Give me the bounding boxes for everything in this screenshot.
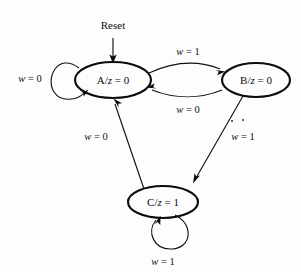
scan-speck-2 [242, 119, 244, 121]
state-node-a[interactable]: A/z = 0 [75, 62, 151, 98]
state-c-label: C/z = 1 [147, 196, 179, 208]
state-a-label: A/z = 0 [97, 74, 130, 86]
reset-label: Reset [101, 19, 125, 31]
transition-b-to-a-group [147, 84, 223, 97]
transition-c-to-a-path [115, 104, 144, 189]
transition-a-to-b-label: w = 1 [176, 46, 199, 57]
fsm-diagram-canvas: Reset w = 0 w = 1 w = 0 w = 1 [0, 0, 301, 272]
transition-a-self-label: w = 0 [18, 73, 41, 84]
transition-c-self-label: w = 1 [151, 256, 174, 267]
transition-c-to-a-group [113, 99, 144, 190]
state-node-b[interactable]: B/z = 0 [222, 63, 290, 97]
transition-c-self-group [152, 215, 189, 249]
transition-b-to-a-path [152, 90, 222, 97]
transition-b-to-c-arrowhead [193, 173, 200, 184]
state-b-label: B/z = 0 [240, 74, 272, 86]
transition-a-self-path [51, 63, 84, 99]
transition-a-to-b-path [149, 63, 220, 73]
scan-speckles [231, 119, 244, 122]
transition-b-to-a-label: w = 0 [176, 104, 199, 115]
transition-b-to-c-label: w = 1 [231, 131, 254, 142]
transition-c-to-a-arrowhead [113, 99, 122, 108]
transition-c-to-a-label: w = 0 [84, 131, 107, 142]
reset-arrow-group [109, 38, 116, 64]
scan-speck-1 [231, 120, 233, 122]
state-diagram-svg: Reset w = 0 w = 1 w = 0 w = 1 [0, 0, 301, 272]
state-node-c[interactable]: C/z = 1 [128, 186, 198, 218]
transition-a-to-b-group [149, 63, 226, 75]
transition-c-self-path [152, 215, 189, 249]
